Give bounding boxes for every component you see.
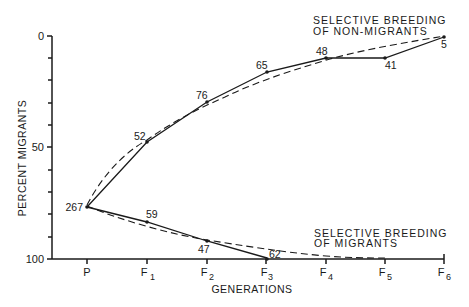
x-axis-title: GENERATIONS <box>211 283 292 295</box>
x-tick-f6-sub: 6 <box>446 272 451 282</box>
y-axis-title: PERCENT MIGRANTS <box>16 100 28 216</box>
annotation-migrants-line2: OF MIGRANTS <box>314 237 398 249</box>
point-label-upper-f2: 76 <box>196 89 208 101</box>
point-label-upper-f6: 5 <box>441 38 447 50</box>
point-label-lower-f3: 62 <box>269 248 281 260</box>
point-label-upper-f3: 65 <box>256 59 268 71</box>
x-tick-labels: P F 1 F 2 F 3 F 4 F 5 F 6 <box>83 266 451 282</box>
y-tick-0: 0 <box>38 30 44 42</box>
x-tick-f2: F <box>201 266 208 278</box>
x-tick-p: P <box>83 266 90 278</box>
x-tick-f3-sub: 3 <box>268 272 273 282</box>
x-tick-f1-sub: 1 <box>150 272 155 282</box>
point-label-upper-f1: 52 <box>134 130 146 142</box>
x-tick-f5-sub: 5 <box>387 272 392 282</box>
point-label-lower-f2: 47 <box>198 243 210 255</box>
x-tick-f6: F <box>438 266 445 278</box>
y-tick-50: 50 <box>32 141 44 153</box>
point-label-p: 267 <box>65 201 83 213</box>
chart-canvas: 0 50 100 PERCENT MIGRANTS P F 1 F 2 F 3 … <box>0 0 469 307</box>
annotation-non-migrants-line2: OF NON-MIGRANTS <box>313 25 428 37</box>
point-label-upper-f5: 41 <box>385 59 397 71</box>
point-label-lower-f1: 59 <box>146 208 158 220</box>
x-tick-f2-sub: 2 <box>209 272 214 282</box>
y-axis <box>47 36 52 259</box>
x-tick-f1: F <box>141 266 148 278</box>
x-tick-f3: F <box>261 266 268 278</box>
x-tick-f5: F <box>379 266 386 278</box>
point-label-upper-f4: 48 <box>316 45 328 57</box>
migrants-observed-line <box>87 207 267 258</box>
y-tick-100: 100 <box>26 253 44 265</box>
x-tick-f4: F <box>320 266 327 278</box>
x-tick-f4-sub: 4 <box>328 272 333 282</box>
x-axis <box>52 254 444 264</box>
